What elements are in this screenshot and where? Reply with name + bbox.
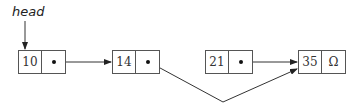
list-node-35: 35 Ω <box>298 50 346 74</box>
pointer-dot-icon <box>146 60 150 64</box>
pointer-dot-icon <box>52 60 56 64</box>
linked-list-diagram: head 10 14 21 35 Ω <box>0 0 358 107</box>
list-node-21: 21 <box>205 50 253 74</box>
head-label: head <box>12 4 44 19</box>
node-value: 35 <box>299 51 322 73</box>
list-node-14: 14 <box>112 50 160 74</box>
node-next-pointer <box>42 51 65 73</box>
node-next-pointer <box>229 51 252 73</box>
list-node-10: 10 <box>18 50 66 74</box>
node-value: 21 <box>206 51 229 73</box>
node-null-terminator: Ω <box>322 51 345 73</box>
node-next-pointer <box>136 51 159 73</box>
node-value: 14 <box>113 51 136 73</box>
node-value: 10 <box>19 51 42 73</box>
pointer-dot-icon <box>239 60 243 64</box>
